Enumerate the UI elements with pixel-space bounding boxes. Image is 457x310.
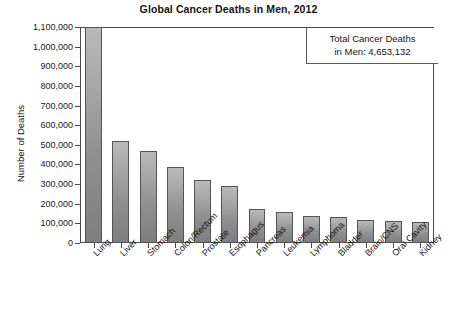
annotation-line-1: Total Cancer Deaths [314, 32, 431, 45]
bar-chart-figure: Global Cancer Deaths in Men, 2012 Number… [0, 0, 457, 310]
x-tick-label: Stomach [145, 226, 177, 258]
total-deaths-annotation: Total Cancer Deaths in Men: 4,653,132 [306, 28, 438, 64]
annotation-line-2: in Men: 4,653,132 [314, 45, 431, 58]
x-tick-label: Liver [118, 237, 139, 258]
x-tick-label: Kidney [417, 232, 444, 259]
x-tick-label: Lung [91, 237, 112, 258]
x-tick-label: Bladder [336, 229, 365, 258]
